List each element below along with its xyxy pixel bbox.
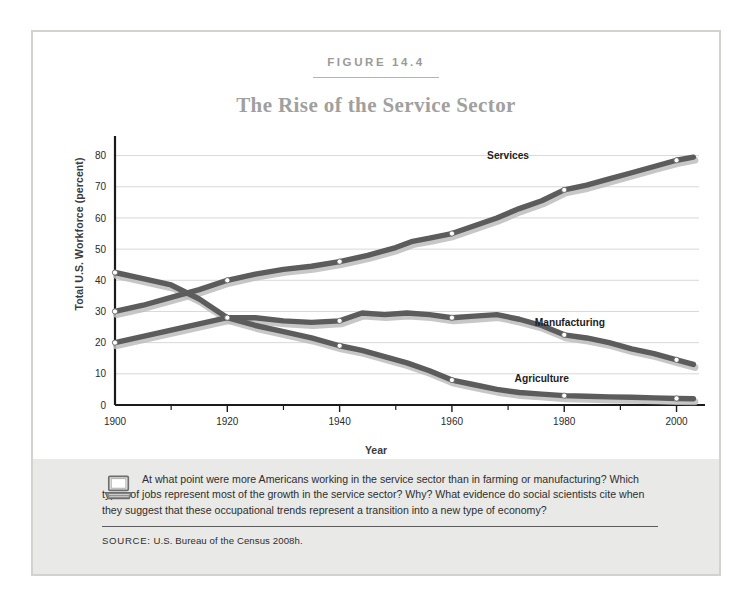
- series-label-manufacturing: Manufacturing: [535, 317, 605, 328]
- laptop-icon: [104, 475, 134, 501]
- y-tick-label: 80: [95, 150, 107, 161]
- figure-title: The Rise of the Service Sector: [33, 93, 719, 118]
- data-point-marker: [674, 158, 679, 163]
- series-line-services: [115, 157, 693, 311]
- y-tick-label: 60: [95, 213, 107, 224]
- data-point-marker: [449, 377, 454, 382]
- figure-frame: FIGURE 14.4 The Rise of the Service Sect…: [31, 30, 721, 576]
- y-tick-label: 40: [95, 275, 107, 286]
- data-point-marker: [225, 278, 230, 283]
- data-point-marker: [449, 231, 454, 236]
- figure-rule: [313, 77, 439, 78]
- x-tick-label: 1920: [216, 416, 239, 427]
- series-label-agriculture: Agriculture: [515, 373, 570, 384]
- data-point-marker: [562, 187, 567, 192]
- y-tick-label: 30: [95, 306, 107, 317]
- y-axis-label: Total U.S. Workforce (percent): [73, 144, 85, 324]
- series-label-services: Services: [487, 150, 529, 161]
- series-shadow-services: [117, 160, 695, 314]
- caption-question: At what point were more Americans workin…: [102, 472, 658, 518]
- data-point-marker: [112, 270, 117, 275]
- data-point-marker: [674, 396, 679, 401]
- data-point-marker: [112, 309, 117, 314]
- x-tick-label: 1960: [441, 416, 464, 427]
- data-point-marker: [337, 318, 342, 323]
- x-tick-label: 1980: [553, 416, 576, 427]
- data-point-marker: [225, 315, 230, 320]
- data-point-marker: [562, 332, 567, 337]
- data-point-marker: [674, 357, 679, 362]
- series-line-manufacturing: [115, 313, 693, 364]
- data-point-marker: [337, 259, 342, 264]
- source-line: SOURCE: U.S. Bureau of the Census 2008h.: [102, 535, 658, 546]
- y-tick-label: 0: [100, 400, 106, 411]
- data-point-marker: [449, 315, 454, 320]
- source-value: U.S. Bureau of the Census 2008h.: [153, 535, 302, 546]
- line-chart-svg: 0102030405060708019001920194019601980200…: [33, 132, 719, 437]
- x-tick-label: 1900: [104, 416, 127, 427]
- data-point-marker: [562, 393, 567, 398]
- x-tick-label: 1940: [328, 416, 351, 427]
- caption-inner: At what point were more Americans workin…: [102, 472, 658, 546]
- data-point-marker: [112, 340, 117, 345]
- y-tick-label: 10: [95, 368, 107, 379]
- y-tick-label: 20: [95, 337, 107, 348]
- source-divider: [102, 526, 658, 527]
- source-label: SOURCE:: [102, 535, 151, 546]
- figure-number: FIGURE 14.4: [33, 56, 719, 68]
- y-tick-label: 70: [95, 181, 107, 192]
- y-tick-label: 50: [95, 244, 107, 255]
- caption-panel: At what point were more Americans workin…: [33, 459, 719, 574]
- data-point-marker: [337, 343, 342, 348]
- x-axis-label: Year: [33, 444, 719, 456]
- chart-plot-area: Total U.S. Workforce (percent) 010203040…: [33, 132, 719, 432]
- x-tick-label: 2000: [665, 416, 688, 427]
